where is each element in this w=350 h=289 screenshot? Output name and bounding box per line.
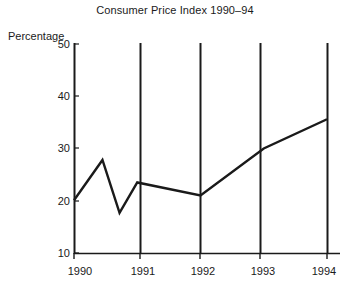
vertical-gridlines [141,43,328,253]
y-tick-label: 40 [58,90,70,102]
x-axis-tick-labels: 1990 1991 1992 1993 1994 [68,265,336,277]
x-tick-label: 1991 [131,265,155,277]
y-axis-tick-labels: 50 40 30 20 10 [58,38,70,259]
x-tick-label: 1993 [251,265,275,277]
x-tick-label: 1992 [191,265,215,277]
y-tick-label: 10 [58,247,70,259]
x-tick-label: 1994 [312,265,336,277]
y-tick-label: 20 [58,195,70,207]
y-tick-label: 30 [58,142,70,154]
plot-area: 50 40 30 20 10 1 [0,0,350,289]
y-tick-label: 50 [58,38,70,50]
chart-container: Consumer Price Index 1990–94 Percentage … [0,0,350,289]
x-tick-label: 1990 [68,265,92,277]
